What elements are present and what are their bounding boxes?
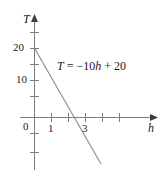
t-tick-label-10: 10 — [16, 74, 27, 85]
h-axis-arrowhead — [150, 114, 158, 121]
equation-lhs: T — [57, 59, 64, 73]
t-axis-arrowhead — [31, 14, 38, 22]
t-axis-label: T — [23, 13, 30, 25]
h-axis-group — [20, 114, 158, 121]
equation-constant: + 20 — [101, 59, 126, 73]
h-tick-label-3: 3 — [82, 123, 88, 134]
plot-canvas — [0, 0, 164, 179]
h-axis-label: h — [148, 122, 154, 134]
linear-function-graph-figure: T h 20 10 0 1 3 T = −10h + 20 — [0, 0, 164, 179]
t-tick-label-20: 20 — [13, 42, 24, 53]
equation-equals: = — [64, 59, 77, 73]
t-axis-group — [31, 14, 38, 170]
equation-annotation: T = −10h + 20 — [57, 60, 126, 72]
equation-coefficient: −10 — [76, 59, 95, 73]
origin-label: 0 — [23, 121, 29, 132]
h-tick-label-1: 1 — [48, 123, 54, 134]
